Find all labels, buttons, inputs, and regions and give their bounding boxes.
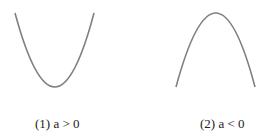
upward-parabola <box>15 13 94 87</box>
label-a-positive: (1) a > 0 <box>35 116 80 132</box>
label-a-negative: (2) a < 0 <box>200 116 245 132</box>
downward-parabola <box>176 13 255 87</box>
